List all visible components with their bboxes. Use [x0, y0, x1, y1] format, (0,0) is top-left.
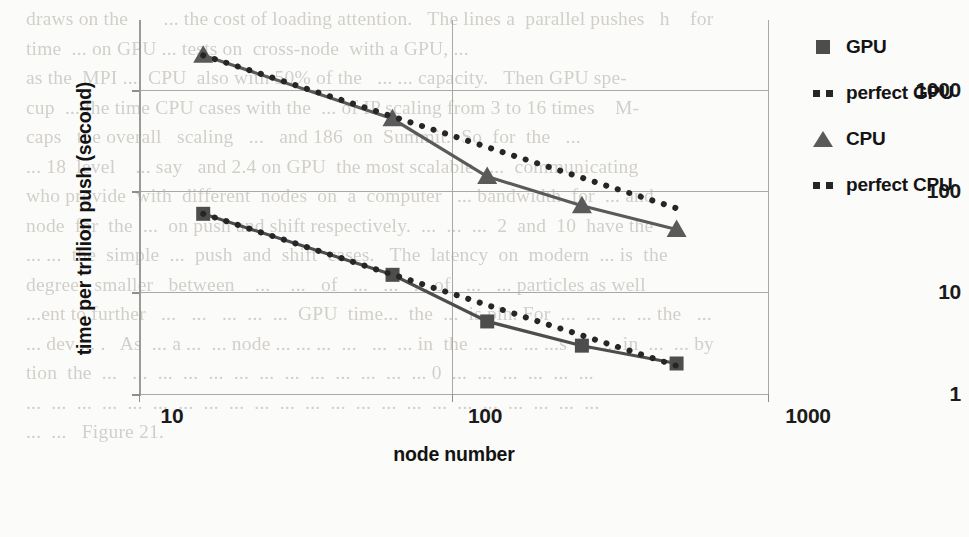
legend-item-cpu: CPU [800, 116, 960, 162]
data-point-marker [477, 167, 497, 185]
dotted-line-icon [800, 182, 846, 189]
chart-figure: 1000 100 10 1 10 100 1000 time per trill… [0, 0, 969, 537]
data-point-marker [575, 339, 589, 353]
triangle-marker-icon [800, 131, 846, 147]
chart-legend: GPU perfect GPU CPU perfect CPU [800, 24, 960, 208]
series-line-cpu [203, 55, 676, 229]
legend-label-perfect-cpu: perfect CPU [846, 174, 953, 196]
legend-label-cpu: CPU [846, 128, 886, 150]
legend-label-perfect-gpu: perfect GPU [846, 82, 954, 104]
square-marker-icon [800, 40, 846, 54]
legend-label-gpu: GPU [846, 36, 887, 58]
series-line-perfect-gpu [203, 214, 676, 366]
data-point-marker [480, 314, 494, 328]
legend-item-perfect-gpu: perfect GPU [800, 70, 960, 116]
legend-item-perfect-cpu: perfect CPU [800, 162, 960, 208]
dotted-line-icon [800, 90, 846, 97]
legend-item-gpu: GPU [800, 24, 960, 70]
series-line-perfect-cpu [203, 55, 676, 208]
